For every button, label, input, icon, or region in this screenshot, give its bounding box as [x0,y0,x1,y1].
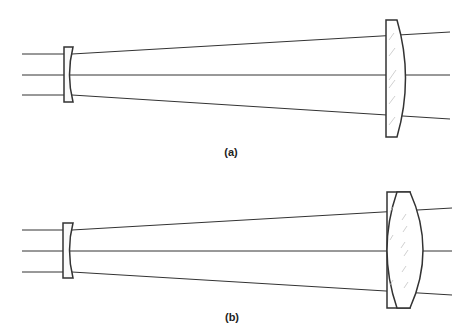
panel-b [22,192,452,308]
plano-convex-lens-a [386,20,406,137]
optical-diagram [0,0,464,334]
caption-a: (a) [224,146,237,158]
panel-a [22,20,450,137]
biconvex-element-b [387,192,423,308]
caption-b: (b) [225,311,239,323]
